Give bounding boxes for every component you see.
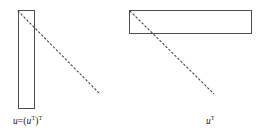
column-vector-label-outer-superscript: T (39, 114, 43, 121)
column-vector-label: u=(uT)T (13, 117, 43, 127)
column-vector-label-equals: =( (18, 116, 27, 126)
row-vector-label-superscript: T (211, 114, 215, 121)
column-vector-rectangle (19, 11, 35, 109)
row-vector-rectangle (130, 11, 252, 34)
figure-canvas: u=(uT)T uT (0, 0, 257, 140)
row-vector-diagonal-dashed-line (130, 11, 214, 94)
row-vector-label: uT (206, 117, 215, 127)
column-vector-diagonal-dashed-line (18, 11, 99, 93)
